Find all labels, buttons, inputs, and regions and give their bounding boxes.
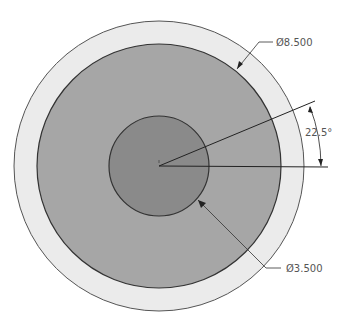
inner-diameter-label: Ø3.500 (286, 263, 323, 274)
technical-drawing: 22.5° Ø8.500 Ø3.500 (0, 0, 346, 328)
angle-arrow-top-icon (308, 106, 313, 113)
angle-arrow-bottom-icon (318, 159, 323, 166)
angle-label: 22.5° (305, 127, 332, 138)
outer-diameter-label: Ø8.500 (276, 37, 313, 48)
